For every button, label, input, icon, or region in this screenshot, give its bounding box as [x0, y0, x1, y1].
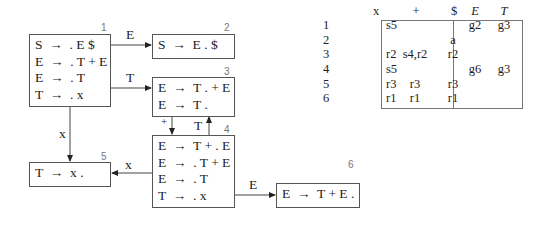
- state-2: S → E . $: [152, 34, 235, 59]
- lr-item: E → T . + E: [158, 80, 234, 97]
- lr-item: E → . T + E: [158, 155, 234, 172]
- edge-label-1-3: T: [126, 70, 134, 86]
- table-cell: r2: [433, 47, 473, 62]
- edge-label-1-2: E: [126, 27, 134, 43]
- lr-item: E → T + . E: [158, 138, 234, 155]
- row-state: 2: [323, 33, 335, 48]
- lr-item: E → T .: [158, 97, 234, 114]
- state-number: 4: [224, 124, 230, 135]
- lr-item: E → . T: [158, 171, 234, 188]
- state-number: 1: [101, 22, 107, 33]
- lr-item: E → . T: [35, 70, 110, 87]
- state-number: 3: [224, 66, 230, 77]
- lr-item: E → . T + E: [35, 54, 110, 71]
- state-1: S → . E $ E → . T + E E → . T T → . x: [29, 34, 111, 107]
- lr-item: S → E . $: [158, 37, 234, 54]
- row-state: 4: [323, 62, 335, 77]
- header-T: T: [484, 4, 524, 19]
- table-cell: g3: [484, 18, 524, 33]
- edge-label-4-3: T: [194, 118, 202, 134]
- table-cell: r3: [433, 77, 473, 92]
- state-5: T → x .: [29, 162, 111, 187]
- table-cell: a: [433, 33, 473, 48]
- table-cell: r1: [395, 91, 435, 106]
- row-state: 1: [323, 18, 335, 33]
- row-state: 6: [323, 91, 335, 106]
- state-number: 5: [101, 151, 107, 162]
- table-cell: r1: [433, 91, 473, 106]
- lr-item: T → . x: [35, 87, 110, 104]
- row-state: 5: [323, 77, 335, 92]
- table-cell: r3: [395, 77, 435, 92]
- state-3: E → T . + E E → T .: [152, 77, 235, 117]
- table-cell: s5: [386, 18, 426, 33]
- table-cell: s4,r2: [395, 47, 435, 62]
- lr-item: T → . x: [158, 188, 234, 205]
- state-number: 6: [348, 159, 354, 170]
- lr-item: E → T + E .: [282, 186, 359, 203]
- row-state: 3: [323, 47, 335, 62]
- table-cell: s5: [386, 62, 426, 77]
- state-4: E → T + . E E → . T + E E → . T T → . x: [152, 135, 235, 208]
- table-cell: g3: [484, 62, 524, 77]
- edge-label-4-6: E: [249, 177, 257, 193]
- state-number: 2: [224, 22, 230, 33]
- lr-item: S → . E $: [35, 37, 110, 54]
- edge-label-4-5: x: [125, 157, 132, 173]
- edge-label-1-5: x: [59, 126, 66, 142]
- state-6: E → T + E .: [276, 183, 360, 208]
- lr-item: T → x .: [35, 165, 110, 182]
